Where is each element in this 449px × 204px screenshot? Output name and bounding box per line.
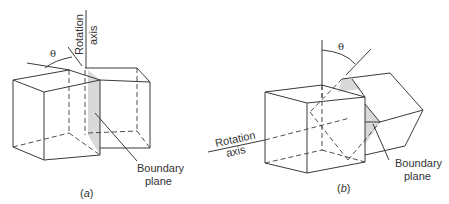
boundary-label-b-line2: plane bbox=[404, 170, 431, 182]
theta-arc-b bbox=[322, 50, 355, 64]
boundary-plane-a-shade bbox=[88, 70, 100, 155]
grain-boundary-diagram: θ Rotation axis Boundary plane (a) bbox=[0, 0, 449, 204]
boundary-label-a-line1: Boundary bbox=[137, 162, 185, 174]
rotation-axis-label-a-line1: Rotation bbox=[73, 14, 85, 55]
boundary-label-a-line2: plane bbox=[145, 175, 172, 187]
caption-a: (a) bbox=[80, 187, 93, 199]
theta-label-a: θ bbox=[50, 48, 56, 59]
front-cube-b bbox=[265, 85, 365, 173]
boundary-plane-b-shade-side bbox=[365, 104, 380, 145]
boundary-label-b-line1: Boundary bbox=[395, 157, 443, 169]
panel-a: θ Rotation axis Boundary plane (a) bbox=[13, 10, 185, 199]
panel-b: θ Rotation axis Boundary plane (b) bbox=[208, 40, 443, 194]
rotation-axis-label-a-line2: axis bbox=[87, 25, 99, 45]
boundary-leader-a bbox=[95, 113, 137, 161]
caption-b: (b) bbox=[337, 182, 350, 194]
tilt-line-a-1 bbox=[27, 63, 70, 70]
tilt-line-b bbox=[346, 49, 371, 75]
left-cube-a bbox=[13, 70, 100, 160]
boundary-leader-b bbox=[373, 124, 389, 160]
theta-label-b: θ bbox=[338, 41, 344, 52]
